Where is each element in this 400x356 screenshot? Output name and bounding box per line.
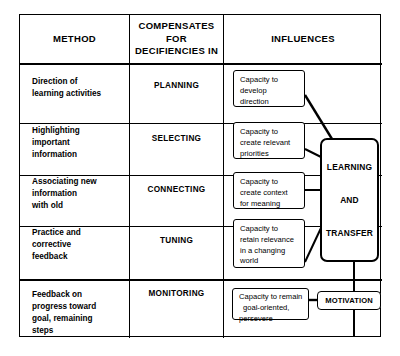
header-method: METHOD: [20, 15, 129, 63]
method-text-line: Feedback on: [32, 289, 129, 301]
influence-text-line: develop: [240, 86, 299, 97]
influence-box-row-3: Capacity to create context for meaning: [233, 172, 305, 209]
influence-text-line: goal-oriented,: [239, 303, 303, 314]
method-cell-row-4: Practice and corrective feedback: [20, 227, 129, 263]
row-separator-1: [20, 123, 382, 124]
outcome-line-and: AND: [340, 195, 359, 205]
header-separator: [20, 63, 382, 65]
motivation-box: MOTIVATION: [317, 291, 381, 310]
compensates-cell-row-1: PLANNING: [130, 81, 223, 90]
header-compensates-line1: COMPENSATES: [135, 20, 218, 33]
method-text-line: learning activities: [32, 88, 129, 100]
influence-text-line: persevere: [239, 314, 303, 325]
influence-box-row-5: Capacity to remain goal-oriented, persev…: [232, 288, 309, 320]
method-text-line: Practice and: [32, 227, 129, 239]
method-text-line: Associating new: [32, 176, 129, 188]
method-cell-row-1: Direction of learning activities: [20, 76, 129, 100]
method-cell-row-5: Feedback on progress toward goal, remain…: [20, 289, 129, 337]
diagram-canvas: METHOD COMPENSATES FOR DECIFIENCIES IN I…: [0, 0, 400, 356]
influence-box-row-4: Capacity to retain relevance in a changi…: [233, 219, 305, 268]
influence-text-line: priorities: [240, 149, 299, 160]
influence-text-line: in a changing: [240, 246, 299, 257]
method-text-line: Highlighting: [32, 125, 129, 137]
outcome-line-learning: LEARNING: [327, 162, 372, 172]
method-text-line: information: [32, 149, 129, 161]
influence-text-line: Capacity to remain: [239, 292, 303, 303]
method-text-line: important: [32, 137, 129, 149]
method-text-line: with old: [32, 200, 129, 212]
influence-text-line: world: [240, 256, 299, 267]
row-separator-4-thick: [20, 279, 382, 281]
method-cell-row-3: Associating new information with old: [20, 176, 129, 212]
influence-text-line: direction: [240, 97, 299, 108]
method-text-line: goal, remaining: [32, 313, 129, 325]
influence-text-line: create relevant: [240, 138, 299, 149]
method-text-line: corrective: [32, 239, 129, 251]
header-compensates-line2: FOR: [135, 33, 218, 46]
method-text-line: steps: [32, 325, 129, 337]
compensates-cell-row-2: SELECTING: [130, 134, 223, 143]
influence-text-line: Capacity to: [240, 75, 299, 86]
header-compensates-line3: DECIFIENCIES IN: [135, 45, 218, 58]
influence-text-line: Capacity to: [240, 177, 299, 188]
influence-text-line: retain relevance: [240, 235, 299, 246]
compensates-cell-row-4: TUNING: [130, 236, 223, 245]
influence-text-line: Capacity to: [240, 127, 299, 138]
influence-box-row-2: Capacity to create relevant priorities: [233, 122, 305, 159]
influence-text-line: Capacity to: [240, 224, 299, 235]
influence-box-row-1: Capacity to develop direction: [233, 70, 305, 107]
method-text-line: feedback: [32, 251, 129, 263]
outcome-line-transfer: TRANSFER: [326, 228, 373, 238]
compensates-cell-row-5: MONITORING: [130, 289, 223, 298]
method-cell-row-2: Highlighting important information: [20, 125, 129, 161]
header-compensates: COMPENSATES FOR DECIFIENCIES IN: [130, 15, 223, 63]
compensates-cell-row-3: CONNECTING: [130, 185, 223, 194]
method-text-line: Direction of: [32, 76, 129, 88]
header-influences: INFLUENCES: [224, 15, 382, 63]
influence-text-line: create context: [240, 188, 299, 199]
learning-and-transfer-box: LEARNING AND TRANSFER: [320, 138, 379, 262]
method-text-line: information: [32, 188, 129, 200]
influence-text-line: for meaning: [240, 199, 299, 210]
method-text-line: progress toward: [32, 301, 129, 313]
